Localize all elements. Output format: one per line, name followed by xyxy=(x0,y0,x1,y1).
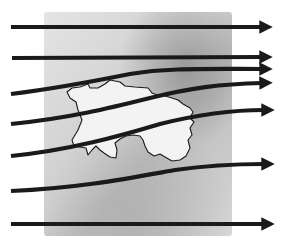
streamline-diagram xyxy=(0,0,285,244)
streamline-2 xyxy=(12,57,262,58)
